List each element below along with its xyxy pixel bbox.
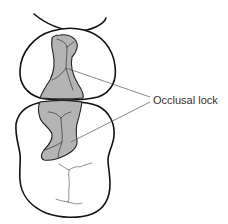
lower-tooth [16, 101, 114, 218]
upper-tooth [20, 28, 116, 100]
occlusal-lock-diagram: Occlusal lock [0, 0, 228, 224]
occlusal-lock-label: Occlusal lock [153, 94, 218, 106]
